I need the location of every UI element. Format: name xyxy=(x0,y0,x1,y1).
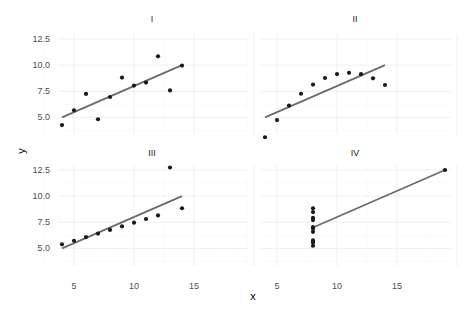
data-point xyxy=(180,63,184,67)
data-point xyxy=(60,123,64,127)
data-point xyxy=(120,224,124,228)
facet-label-II: II xyxy=(352,14,357,24)
x-tick-label: 5 xyxy=(274,281,279,291)
data-point xyxy=(144,80,148,84)
x-tick-label: 15 xyxy=(189,281,199,291)
facet-panel-II: II xyxy=(247,14,457,139)
data-point xyxy=(84,92,88,96)
x-tick-label: 5 xyxy=(71,281,76,291)
data-point xyxy=(359,72,363,76)
data-point xyxy=(120,75,124,79)
data-point xyxy=(311,210,315,214)
y-tick-label: 12.5 xyxy=(32,165,50,175)
y-axis-title: y xyxy=(15,148,27,154)
data-point xyxy=(156,213,160,217)
data-point xyxy=(156,54,160,58)
data-point xyxy=(371,76,375,80)
x-axis-title: x xyxy=(250,290,256,302)
data-point xyxy=(180,206,184,210)
facet-panel-I: I5.07.510.012.5 xyxy=(32,14,254,135)
data-point xyxy=(311,82,315,86)
data-point xyxy=(108,95,112,99)
data-point xyxy=(311,216,315,220)
y-tick-label: 5.0 xyxy=(37,112,50,122)
data-point xyxy=(383,83,387,87)
x-tick-label: 15 xyxy=(392,281,402,291)
y-tick-label: 5.0 xyxy=(37,243,50,253)
data-point xyxy=(132,84,136,88)
y-tick-label: 10.0 xyxy=(32,191,50,201)
facet-label-I: I xyxy=(151,14,154,24)
y-tick-label: 7.5 xyxy=(37,217,50,227)
x-tick-label: 10 xyxy=(332,281,342,291)
data-point xyxy=(443,168,447,172)
data-point xyxy=(96,231,100,235)
data-point xyxy=(144,217,148,221)
x-tick-label: 10 xyxy=(129,281,139,291)
anscombe-facet-chart: I5.07.510.012.5IIIII5.07.510.012.551015I… xyxy=(0,0,473,318)
facet-panel-III: III5.07.510.012.551015 xyxy=(32,148,254,291)
data-point xyxy=(168,165,172,169)
facet-label-III: III xyxy=(148,148,156,158)
data-point xyxy=(168,88,172,92)
y-tick-label: 10.0 xyxy=(32,60,50,70)
data-point xyxy=(275,118,279,122)
data-point xyxy=(287,103,291,107)
data-point xyxy=(311,206,315,210)
data-point xyxy=(263,135,267,139)
data-point xyxy=(311,227,315,231)
data-point xyxy=(72,108,76,112)
data-point xyxy=(60,242,64,246)
facet-panel-IV: IV51015 xyxy=(247,148,457,291)
data-point xyxy=(108,228,112,232)
data-point xyxy=(84,235,88,239)
data-point xyxy=(96,117,100,121)
data-point xyxy=(132,221,136,225)
regression-line xyxy=(313,170,445,227)
data-point xyxy=(72,239,76,243)
y-tick-label: 12.5 xyxy=(32,34,50,44)
facet-label-IV: IV xyxy=(351,148,360,158)
y-tick-label: 7.5 xyxy=(37,86,50,96)
data-point xyxy=(323,76,327,80)
data-point xyxy=(335,72,339,76)
data-point xyxy=(347,71,351,75)
data-point xyxy=(299,92,303,96)
data-point xyxy=(311,240,315,244)
